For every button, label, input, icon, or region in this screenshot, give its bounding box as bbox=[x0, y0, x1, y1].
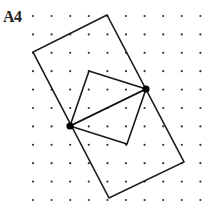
grid-dot bbox=[162, 181, 164, 183]
grid-dot bbox=[106, 125, 108, 127]
grid-dot bbox=[162, 144, 164, 146]
grid-dot bbox=[51, 199, 53, 201]
grid-dot bbox=[69, 107, 71, 109]
grid-dot bbox=[69, 15, 71, 17]
grid-dot bbox=[181, 70, 183, 72]
grid-dot bbox=[88, 125, 90, 127]
grid-dot bbox=[69, 52, 71, 54]
grid-dot bbox=[51, 70, 53, 72]
upper-triangle bbox=[70, 71, 146, 126]
grid-dot bbox=[181, 199, 183, 201]
grid-dot bbox=[106, 89, 108, 91]
grid-dot bbox=[32, 181, 34, 183]
grid-dot bbox=[51, 107, 53, 109]
grid-dot bbox=[181, 144, 183, 146]
grid-dot bbox=[32, 89, 34, 91]
grid-dot bbox=[181, 52, 183, 54]
grid-dot bbox=[106, 162, 108, 164]
grid-dot bbox=[144, 70, 146, 72]
grid-dot bbox=[32, 125, 34, 127]
grid-dot bbox=[88, 162, 90, 164]
grid-dot bbox=[181, 33, 183, 35]
grid-dot bbox=[181, 15, 183, 17]
grid-dot bbox=[88, 15, 90, 17]
grid-dot bbox=[199, 52, 201, 54]
grid-dot bbox=[162, 33, 164, 35]
grid-dot bbox=[51, 162, 53, 164]
grid-dot bbox=[51, 33, 53, 35]
grid-dot bbox=[106, 33, 108, 35]
grid-dot bbox=[181, 181, 183, 183]
grid-dot bbox=[51, 181, 53, 183]
grid-dot bbox=[199, 199, 201, 201]
geometric-shapes bbox=[33, 15, 184, 198]
grid-dot bbox=[144, 199, 146, 201]
grid-dot bbox=[125, 70, 127, 72]
grid-dot bbox=[32, 162, 34, 164]
grid-dot bbox=[125, 199, 127, 201]
grid-dot bbox=[199, 162, 201, 164]
grid-dot bbox=[51, 52, 53, 54]
grid-dot bbox=[88, 199, 90, 201]
grid-dot bbox=[125, 107, 127, 109]
grid-dot bbox=[199, 15, 201, 17]
grid-dot bbox=[106, 70, 108, 72]
grid-dot bbox=[51, 125, 53, 127]
grid-dot bbox=[32, 107, 34, 109]
grid-dot bbox=[125, 162, 127, 164]
grid-dot bbox=[69, 89, 71, 91]
grid-dot bbox=[88, 144, 90, 146]
grid-dot bbox=[106, 52, 108, 54]
grid-dot bbox=[162, 52, 164, 54]
grid-dot bbox=[181, 89, 183, 91]
marked-point bbox=[142, 85, 149, 92]
grid-dot bbox=[88, 89, 90, 91]
grid-dot bbox=[88, 33, 90, 35]
grid-dot bbox=[88, 52, 90, 54]
grid-dot bbox=[51, 144, 53, 146]
grid-dot bbox=[144, 144, 146, 146]
grid-dot bbox=[144, 162, 146, 164]
grid-dot bbox=[199, 181, 201, 183]
grid-dot bbox=[199, 89, 201, 91]
marked-point bbox=[66, 122, 73, 129]
grid-dot bbox=[162, 15, 164, 17]
grid-dot bbox=[106, 144, 108, 146]
grid-dot bbox=[32, 199, 34, 201]
grid-dot bbox=[144, 15, 146, 17]
grid-dot bbox=[162, 89, 164, 91]
grid-dot bbox=[69, 70, 71, 72]
grid-dot bbox=[144, 52, 146, 54]
grid-dot bbox=[199, 70, 201, 72]
grid-dot bbox=[125, 89, 127, 91]
grid-dot bbox=[162, 162, 164, 164]
grid-dot bbox=[69, 162, 71, 164]
grid-dot bbox=[69, 199, 71, 201]
grid-dot bbox=[125, 125, 127, 127]
grid-dot bbox=[181, 125, 183, 127]
lower-triangle bbox=[70, 89, 146, 144]
grid-dot bbox=[144, 33, 146, 35]
grid-dot bbox=[32, 70, 34, 72]
grid-dot bbox=[144, 125, 146, 127]
grid-dot bbox=[88, 107, 90, 109]
grid-dot bbox=[125, 181, 127, 183]
grid-dot bbox=[32, 33, 34, 35]
grid-dot bbox=[144, 107, 146, 109]
grid-dot bbox=[199, 33, 201, 35]
grid-dot bbox=[125, 33, 127, 35]
grid-dot bbox=[162, 199, 164, 201]
dot-grid bbox=[32, 15, 202, 201]
grid-dot bbox=[69, 144, 71, 146]
grid-dot bbox=[199, 125, 201, 127]
grid-dot bbox=[162, 107, 164, 109]
grid-dot bbox=[125, 15, 127, 17]
grid-dot bbox=[32, 144, 34, 146]
dot-grid-diagram bbox=[0, 0, 215, 209]
grid-dot bbox=[162, 125, 164, 127]
grid-dot bbox=[181, 107, 183, 109]
grid-dot bbox=[199, 107, 201, 109]
grid-dot bbox=[106, 181, 108, 183]
grid-dot bbox=[69, 181, 71, 183]
grid-dot bbox=[199, 144, 201, 146]
